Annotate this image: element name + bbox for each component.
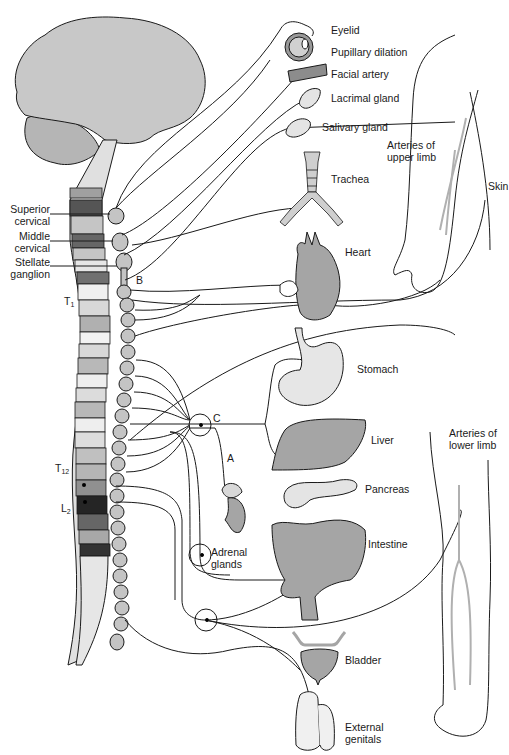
label-b: B <box>136 274 143 286</box>
label-trachea: Trachea <box>331 173 369 185</box>
label-superior-cervical: Superior cervical <box>2 203 50 227</box>
lower-limb <box>430 432 491 736</box>
label-t12: T12 <box>55 462 69 478</box>
label-pancreas: Pancreas <box>365 483 409 495</box>
label-skin: Skin <box>488 180 508 192</box>
trachea <box>280 152 343 226</box>
label-pupillary-dilation: Pupillary dilation <box>331 46 407 58</box>
stomach <box>279 328 344 405</box>
pancreas <box>284 480 357 508</box>
bladder <box>293 632 345 685</box>
label-t1: T1 <box>64 295 74 311</box>
ganglia <box>189 414 217 631</box>
label-heart: Heart <box>345 246 371 258</box>
external-genitals <box>296 692 335 751</box>
label-bladder: Bladder <box>345 654 381 666</box>
label-stomach: Stomach <box>357 363 398 375</box>
upper-limb <box>394 35 490 293</box>
adrenal-kidney <box>222 483 245 532</box>
label-adrenal-glands: Adrenal glands <box>211 546 247 570</box>
intestine <box>272 520 366 620</box>
sympathetic-diagram <box>0 0 509 755</box>
label-intestine: Intestine <box>368 538 408 550</box>
label-c: C <box>213 412 221 424</box>
liver <box>272 419 366 470</box>
sympathetic-chain <box>108 208 135 650</box>
label-facial-artery: Facial artery <box>331 68 389 80</box>
facial-artery <box>288 64 327 82</box>
heart <box>296 232 340 320</box>
salivary-gland <box>286 119 310 137</box>
label-salivary-gland: Salivary gland <box>322 121 388 133</box>
lacrimal-gland <box>299 88 320 108</box>
label-lacrimal-gland: Lacrimal gland <box>331 92 399 104</box>
label-middle-cervical: Middle cervical <box>2 230 50 254</box>
label-external-genitals: External genitals <box>345 721 384 745</box>
label-eyelid: Eyelid <box>331 24 360 36</box>
label-arteries-upper-limb: Arteries of upper limb <box>387 139 436 163</box>
label-l2: L2 <box>61 502 71 518</box>
eye <box>285 25 313 61</box>
label-a: A <box>227 452 234 464</box>
label-arteries-lower-limb: Arteries of lower limb <box>449 427 497 451</box>
label-liver: Liver <box>371 434 394 446</box>
label-stellate-ganglion: Stellate ganglion <box>2 256 50 280</box>
